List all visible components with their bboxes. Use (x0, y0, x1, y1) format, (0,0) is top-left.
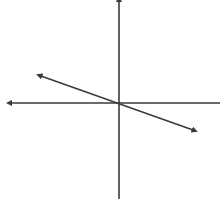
coordinate-diagram (0, 0, 220, 199)
